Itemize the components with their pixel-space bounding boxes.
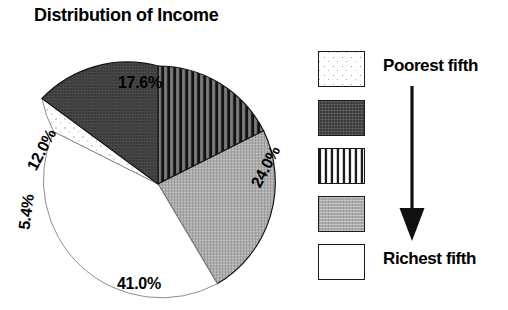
- pie-label-third-fifth: 17.6%: [118, 74, 162, 92]
- pie-label-richest-fifth: 41.0%: [117, 275, 161, 293]
- arrow-down-icon: [392, 84, 432, 244]
- legend-label-richest-fifth: Richest fifth: [383, 249, 476, 269]
- chart-legend: Poorest fifth Richest fifth: [315, 40, 508, 302]
- third-fifth-swatch: [318, 148, 365, 184]
- legend-label-poorest-fifth: Poorest fifth: [383, 56, 478, 76]
- fourth-fifth-swatch: [318, 196, 365, 232]
- second-fifth-swatch: [318, 100, 365, 136]
- poorest-fifth-swatch: [318, 51, 365, 87]
- pie-chart-area: 17.6% 24.0% 41.0% 12.0% 5.4%: [0, 36, 310, 310]
- richest-fifth-swatch: [318, 244, 365, 280]
- chart-title: Distribution of Income: [34, 4, 274, 26]
- pie-chart-figure: Distribution of Income: [0, 0, 508, 310]
